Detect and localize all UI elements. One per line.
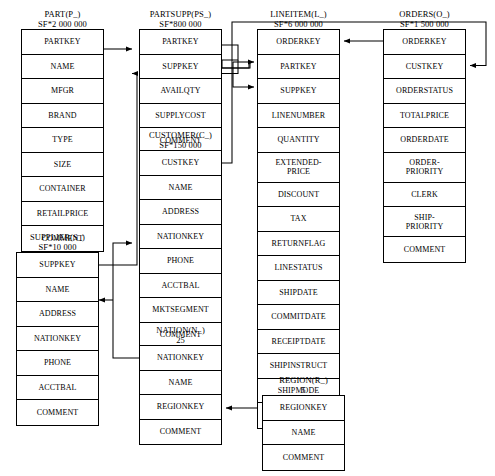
column-orders-clerk[interactable]: CLERK [384, 183, 465, 208]
table-lineitem-title: LINEITEM(L_) SF*6 000 000 [257, 10, 340, 29]
column-customer-nationkey[interactable]: NATIONKEY [140, 225, 221, 250]
table-customer-cardinality: SF*150 000 [139, 141, 222, 151]
column-part-size[interactable]: SIZE [22, 153, 103, 178]
column-customer-acctbal[interactable]: ACCTBAL [140, 274, 221, 299]
column-region-name[interactable]: NAME [263, 421, 344, 446]
table-orders: ORDERS(O_) SF*1 500 000 ORDERKEY CUSTKEY… [383, 10, 466, 263]
column-region-regionkey[interactable]: REGIONKEY [263, 396, 344, 421]
table-orders-name: ORDERS(O_) [399, 9, 450, 19]
column-part-type[interactable]: TYPE [22, 128, 103, 153]
table-supplier-title: SUPPLIER(S_) SF*10 000 [16, 233, 99, 252]
column-lineitem-linenumber[interactable]: LINENUMBER [258, 104, 339, 129]
column-nation-comment[interactable]: COMMENT [140, 420, 221, 445]
column-part-brand[interactable]: BRAND [22, 104, 103, 129]
table-supplier-cardinality: SF*10 000 [16, 243, 99, 253]
column-partsupp-partkey[interactable]: PARTKEY [140, 30, 221, 55]
column-orders-orderpriority-label: ORDER-PRIORITY [385, 158, 464, 176]
table-nation: NATION(N_) 25 NATIONKEY NAME REGIONKEY C… [139, 326, 222, 445]
table-customer-title: CUSTOMER(C_) SF*150 000 [139, 131, 222, 150]
column-supplier-phone[interactable]: PHONE [17, 351, 98, 376]
column-supplier-comment[interactable]: COMMENT [17, 400, 98, 425]
column-orders-shippriority[interactable]: SHIP-PRIORITY [384, 207, 465, 237]
column-partsupp-suppkey[interactable]: SUPPKEY [140, 55, 221, 80]
column-part-retailprice[interactable]: RETAILPRICE [22, 202, 103, 227]
column-orders-shippriority-label: SHIP-PRIORITY [385, 213, 464, 231]
column-lineitem-quantity[interactable]: QUANTITY [258, 128, 339, 153]
table-orders-title: ORDERS(O_) SF*1 500 000 [383, 10, 466, 29]
column-lineitem-discount[interactable]: DISCOUNT [258, 183, 339, 208]
column-customer-phone[interactable]: PHONE [140, 249, 221, 274]
table-part-box: PARTKEY NAME MFGR BRAND TYPE SIZE CONTAI… [21, 29, 104, 252]
column-part-partkey[interactable]: PARTKEY [22, 30, 103, 55]
table-part-title: PART(P_) SF*2 000 000 [21, 10, 104, 29]
column-lineitem-suppkey[interactable]: SUPPKEY [258, 79, 339, 104]
table-customer-box: CUSTKEY NAME ADDRESS NATIONKEY PHONE ACC… [139, 150, 222, 348]
column-lineitem-linestatus[interactable]: LINESTATUS [258, 256, 339, 281]
table-lineitem-cardinality: SF*6 000 000 [257, 20, 340, 30]
column-lineitem-orderkey[interactable]: ORDERKEY [258, 30, 339, 55]
column-orders-comment[interactable]: COMMENT [384, 237, 465, 262]
column-orders-orderdate[interactable]: ORDERDATE [384, 128, 465, 153]
column-lineitem-extendedprice-label: EXTENDED-PRICE [259, 158, 338, 176]
wire-partsupp-join-a [222, 62, 250, 68]
table-partsupp-name: PARTSUPP(PS_) [150, 9, 211, 19]
column-customer-address[interactable]: ADDRESS [140, 200, 221, 225]
column-supplier-suppkey[interactable]: SUPPKEY [17, 253, 98, 278]
column-supplier-name[interactable]: NAME [17, 278, 98, 303]
column-nation-regionkey[interactable]: REGIONKEY [140, 395, 221, 420]
table-region-title: REGION(R_) 5 [262, 376, 345, 395]
table-orders-cardinality: SF*1 500 000 [383, 20, 466, 30]
column-partsupp-availqty[interactable]: AVAILQTY [140, 79, 221, 104]
table-customer: CUSTOMER(C_) SF*150 000 CUSTKEY NAME ADD… [139, 131, 222, 348]
table-nation-box: NATIONKEY NAME REGIONKEY COMMENT [139, 345, 222, 445]
column-lineitem-shipdate[interactable]: SHIPDATE [258, 281, 339, 306]
column-customer-mktsegment[interactable]: MKTSEGMENT [140, 298, 221, 323]
table-region-box: REGIONKEY NAME COMMENT [262, 395, 345, 471]
column-customer-name[interactable]: NAME [140, 176, 221, 201]
column-lineitem-extendedprice[interactable]: EXTENDED-PRICE [258, 153, 339, 183]
column-orders-orderkey[interactable]: ORDERKEY [384, 30, 465, 55]
column-part-container[interactable]: CONTAINER [22, 177, 103, 202]
column-part-mfgr[interactable]: MFGR [22, 79, 103, 104]
column-lineitem-returnflag[interactable]: RETURNFLAG [258, 232, 339, 257]
table-nation-title: NATION(N_) 25 [139, 326, 222, 345]
wire-partsupp-stub-a [222, 45, 250, 68]
wire-partsupp-stub-b [222, 60, 238, 74]
table-nation-cardinality: 25 [139, 336, 222, 346]
table-supplier: SUPPLIER(S_) SF*10 000 SUPPKEY NAME ADDR… [16, 233, 99, 426]
table-supplier-name: SUPPLIER(S_) [30, 232, 85, 242]
column-partsupp-supplycost[interactable]: SUPPLYCOST [140, 104, 221, 129]
column-region-comment[interactable]: COMMENT [263, 445, 344, 470]
table-lineitem-box: ORDERKEY PARTKEY SUPPKEY LINENUMBER QUAN… [257, 29, 340, 429]
column-nation-nationkey[interactable]: NATIONKEY [140, 346, 221, 371]
column-lineitem-receiptdate[interactable]: RECEIPTDATE [258, 330, 339, 355]
table-nation-name: NATION(N_) [156, 325, 205, 335]
column-lineitem-tax[interactable]: TAX [258, 207, 339, 232]
table-region-cardinality: 5 [262, 386, 345, 396]
column-nation-name[interactable]: NAME [140, 371, 221, 396]
table-region-name: REGION(R_) [279, 375, 328, 385]
column-supplier-acctbal[interactable]: ACCTBAL [17, 376, 98, 401]
column-supplier-nationkey[interactable]: NATIONKEY [17, 327, 98, 352]
table-orders-box: ORDERKEY CUSTKEY ORDERSTATUS TOTALPRICE … [383, 29, 466, 263]
wire-nation-customer [113, 243, 139, 358]
column-orders-orderpriority[interactable]: ORDER-PRIORITY [384, 153, 465, 183]
column-orders-totalprice[interactable]: TOTALPRICE [384, 104, 465, 129]
table-part-name: PART(P_) [45, 9, 81, 19]
table-partsupp-title: PARTSUPP(PS_) SF*800 000 [139, 10, 222, 29]
column-lineitem-commitdate[interactable]: COMMITDATE [258, 305, 339, 330]
table-lineitem-name: LINEITEM(L_) [270, 9, 326, 19]
table-partsupp-cardinality: SF*800 000 [139, 20, 222, 30]
table-part-cardinality: SF*2 000 000 [21, 20, 104, 30]
table-supplier-box: SUPPKEY NAME ADDRESS NATIONKEY PHONE ACC… [16, 252, 99, 426]
column-orders-custkey[interactable]: CUSTKEY [384, 55, 465, 80]
column-supplier-address[interactable]: ADDRESS [17, 302, 98, 327]
column-lineitem-partkey[interactable]: PARTKEY [258, 55, 339, 80]
column-part-name[interactable]: NAME [22, 55, 103, 80]
table-lineitem: LINEITEM(L_) SF*6 000 000 ORDERKEY PARTK… [257, 10, 340, 429]
table-region: REGION(R_) 5 REGIONKEY NAME COMMENT [262, 376, 345, 471]
column-orders-orderstatus[interactable]: ORDERSTATUS [384, 79, 465, 104]
table-part: PART(P_) SF*2 000 000 PARTKEY NAME MFGR … [21, 10, 104, 252]
wire-partsupp-lineitem-suppkey [233, 62, 254, 87]
column-customer-custkey[interactable]: CUSTKEY [140, 151, 221, 176]
